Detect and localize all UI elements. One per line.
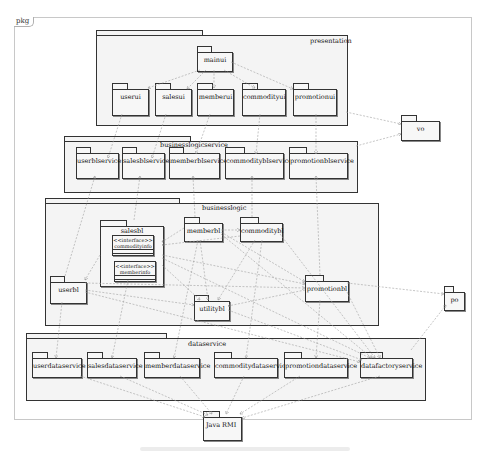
package-label: businesslogic xyxy=(202,204,246,212)
interface-commodityinfo[interactable]: <<interface>> commodityinfo xyxy=(112,235,154,256)
figure-caption xyxy=(140,447,350,451)
frame-label: pkg xyxy=(14,17,34,27)
package-label: presentation xyxy=(310,37,352,45)
package-diagram: pkg presentation businesslogicservice bu… xyxy=(0,0,484,460)
package-label: dataservice xyxy=(188,340,226,348)
interface-memberinfo[interactable]: <<interface>> memberinfo xyxy=(114,261,156,282)
